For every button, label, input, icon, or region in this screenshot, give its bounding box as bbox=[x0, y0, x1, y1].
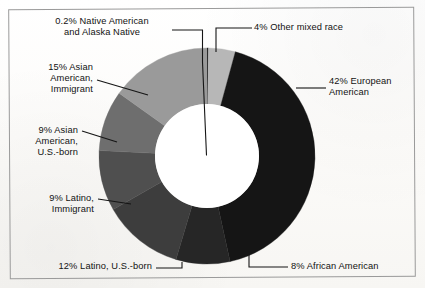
callout-label-asian-american-immigrant: 15% Asian American, Immigrant bbox=[18, 62, 93, 95]
leader-line-other-mixed-race bbox=[216, 28, 252, 52]
callout-label-asian-american-us-born: 9% Asian American, U.S.-born bbox=[6, 125, 78, 158]
callout-label-latino-immigrant: 9% Latino, Immigrant bbox=[10, 193, 94, 215]
callout-label-european-american: 42% European American bbox=[329, 76, 421, 98]
donut-center-hole bbox=[155, 104, 259, 208]
callout-label-other-mixed-race: 4% Other mixed race bbox=[254, 22, 404, 33]
leader-line-latino-us-born bbox=[156, 262, 182, 268]
callout-label-latino-us-born: 12% Latino, U.S.-born bbox=[18, 261, 152, 272]
leader-line-african-american bbox=[249, 255, 288, 267]
chart-canvas: 0.2% Native American and Alaska Native 4… bbox=[0, 0, 425, 288]
callout-label-african-american: 8% African American bbox=[291, 261, 413, 272]
callout-label-native-american: 0.2% Native American and Alaska Native bbox=[32, 16, 172, 38]
